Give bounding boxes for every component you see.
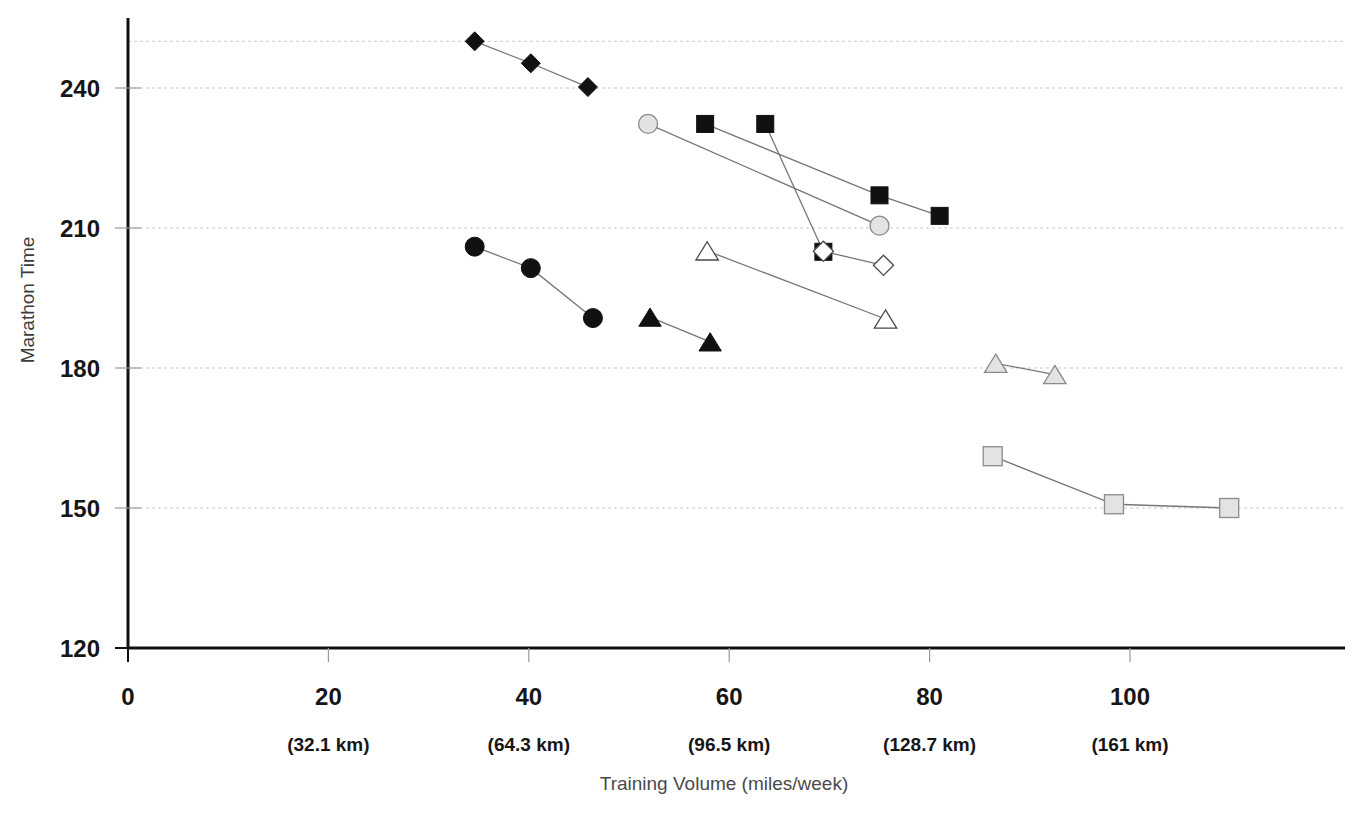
series-line-white-triangle-series <box>707 251 885 319</box>
marker-triangle-7-1 <box>874 310 896 328</box>
marker-circle-5-2 <box>583 309 602 328</box>
marker-square-9-2 <box>1220 499 1239 518</box>
data-series <box>465 32 1239 518</box>
x-tick-label-100: 100 <box>1110 683 1150 710</box>
x-tick-label-0: 0 <box>121 683 134 710</box>
marker-diamond-0-1 <box>521 54 540 73</box>
y-tick-label-240: 240 <box>60 75 100 102</box>
x-tick-labels: 020(32.1 km)40(64.3 km)60(96.5 km)80(128… <box>121 683 1168 755</box>
x-tick-label-20: 20 <box>315 683 342 710</box>
marker-diamond-0-2 <box>578 78 597 97</box>
x-tick-sublabel-60: (96.5 km) <box>688 734 770 755</box>
series-line-black-square-series-a <box>705 124 939 216</box>
x-axis-title: Training Volume (miles/week) <box>600 773 849 794</box>
series-line-gray-circle-series <box>648 124 879 226</box>
marker-triangle-7-0 <box>696 242 718 260</box>
x-tick-sublabel-80: (128.7 km) <box>883 734 976 755</box>
series-white-diamond-series <box>813 241 893 275</box>
x-tick-sublabel-20: (32.1 km) <box>287 734 369 755</box>
series-gray-triangle-series <box>985 354 1067 383</box>
y-tick-label-150: 150 <box>60 495 100 522</box>
x-tick-sublabel-100: (161 km) <box>1091 734 1168 755</box>
axes <box>128 18 1345 648</box>
y-tick-labels: 120150180210240 <box>60 75 100 662</box>
series-black-triangle-series <box>639 308 722 351</box>
series-gray-square-series <box>983 447 1238 518</box>
tick-marks <box>115 88 1130 662</box>
marker-square-1-2 <box>931 207 948 224</box>
marker-triangle-8-0 <box>985 354 1007 372</box>
marker-diamond-4-1 <box>873 255 893 275</box>
marker-square-1-0 <box>697 115 714 132</box>
series-line-black-circle-series <box>475 247 593 318</box>
marker-circle-3-1 <box>870 216 889 235</box>
x-tick-label-60: 60 <box>716 683 743 710</box>
y-axis-title: Marathon Time <box>17 237 38 364</box>
marker-square-9-0 <box>983 447 1002 466</box>
y-tick-label-120: 120 <box>60 635 100 662</box>
marker-circle-5-1 <box>521 259 540 278</box>
x-tick-label-40: 40 <box>515 683 542 710</box>
series-line-white-diamond-series <box>823 251 883 265</box>
series-black-circle-series <box>465 237 602 327</box>
marker-circle-5-0 <box>465 237 484 256</box>
chart-canvas: 020(32.1 km)40(64.3 km)60(96.5 km)80(128… <box>0 0 1360 815</box>
x-tick-label-80: 80 <box>916 683 943 710</box>
y-tick-label-180: 180 <box>60 355 100 382</box>
x-tick-sublabel-40: (64.3 km) <box>488 734 570 755</box>
marker-triangle-6-1 <box>699 333 721 351</box>
marker-circle-3-0 <box>639 114 658 133</box>
y-tick-label-210: 210 <box>60 215 100 242</box>
marker-square-2-0 <box>757 115 774 132</box>
marker-square-1-1 <box>871 187 888 204</box>
series-white-triangle-series <box>696 242 897 328</box>
marker-triangle-6-0 <box>639 308 661 326</box>
series-black-square-series-a <box>697 115 948 224</box>
series-line-black-triangle-series <box>650 317 710 342</box>
marathon-training-chart: 020(32.1 km)40(64.3 km)60(96.5 km)80(128… <box>0 0 1360 815</box>
marker-square-9-1 <box>1104 495 1123 514</box>
marker-diamond-0-0 <box>465 32 484 51</box>
gridlines <box>128 41 1345 508</box>
